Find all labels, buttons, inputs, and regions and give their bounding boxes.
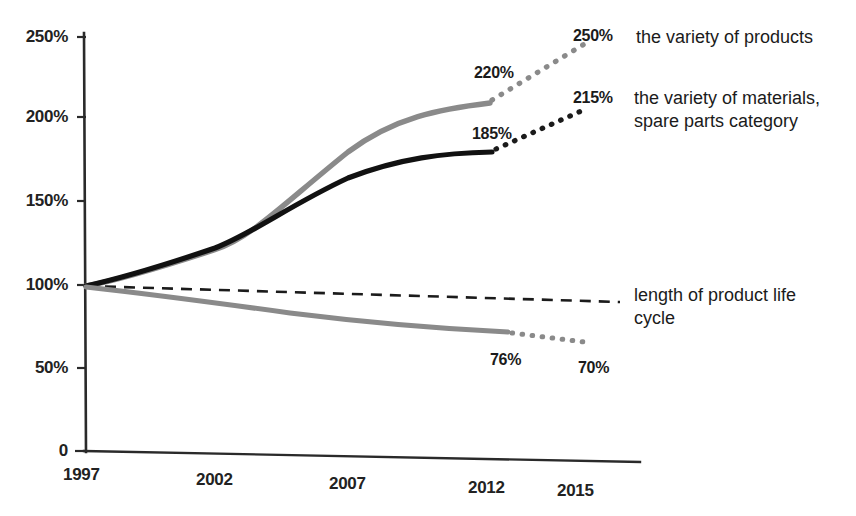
series-label-variety-of-materials-line2: spare parts category xyxy=(634,111,798,133)
value-label-215: 215% xyxy=(573,88,613,108)
x-tick-label-2007: 2007 xyxy=(329,474,366,495)
x-tick-label-2012: 2012 xyxy=(468,478,505,499)
series-projection-product-life-cycle xyxy=(512,333,592,343)
series-label-variety-of-products: the variety of products xyxy=(636,27,813,49)
value-label-76: 76% xyxy=(490,350,521,370)
y-tick-label-50: 50% xyxy=(6,358,68,379)
chart-figure: 250% 200% 150% 100% 50% 0 1997 2002 2007… xyxy=(0,0,856,516)
y-tick-label-150: 150% xyxy=(6,191,68,212)
x-tick-label-1997: 1997 xyxy=(63,465,100,486)
series-line-product-life-cycle xyxy=(86,287,508,332)
x-tick-label-2002: 2002 xyxy=(196,470,233,491)
value-label-250: 250% xyxy=(573,26,613,46)
y-tick-label-250: 250% xyxy=(6,27,68,48)
series-line-variety-of-products xyxy=(86,103,490,286)
reference-line-100 xyxy=(86,286,620,302)
series-line-variety-of-materials xyxy=(86,152,492,286)
series-label-variety-of-materials-line1: the variety of materials, xyxy=(634,88,820,110)
x-tick-label-2015: 2015 xyxy=(557,481,594,502)
y-tick-label-200: 200% xyxy=(6,107,68,128)
value-label-220: 220% xyxy=(474,63,514,83)
y-tick-label-100: 100% xyxy=(6,275,68,296)
series-label-product-life-cycle-line1: length of product life xyxy=(634,285,796,307)
value-label-185: 185% xyxy=(472,124,512,144)
x-axis-line xyxy=(84,451,640,462)
value-label-70: 70% xyxy=(578,358,609,378)
y-axis-line xyxy=(84,33,86,452)
series-label-product-life-cycle-line2: cycle xyxy=(634,308,675,330)
y-tick-label-0: 0 xyxy=(6,441,68,462)
chart-canvas xyxy=(0,0,856,516)
